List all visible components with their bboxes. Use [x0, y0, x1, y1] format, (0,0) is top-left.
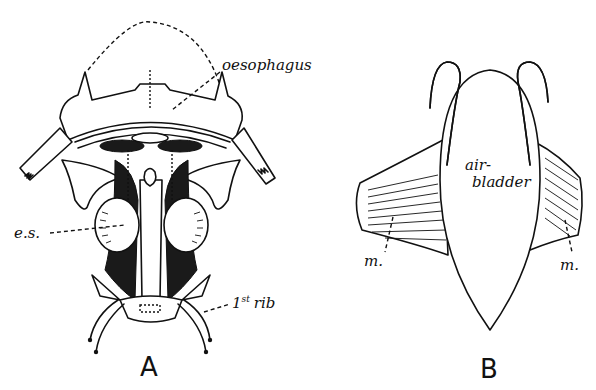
left-muscle [356, 140, 448, 255]
right-jaw-bar [232, 128, 275, 184]
label-air: air- [465, 156, 491, 174]
rib-suffix: st [242, 294, 251, 304]
panel-label-b: B [480, 354, 498, 384]
figure-canvas: oesophagus e.s. 1strib A air- bladder m [0, 0, 596, 390]
vertebral-column [140, 180, 162, 305]
label-m-right: m. [560, 256, 579, 274]
rib-ordinal: 1 [232, 294, 242, 312]
label-oesophagus: oesophagus [222, 56, 312, 74]
panel-b-drawing [356, 62, 582, 330]
label-m-left: m. [364, 252, 383, 270]
rib-word: rib [254, 294, 276, 312]
label-es: e.s. [14, 224, 40, 242]
panel-label-a: A [140, 352, 158, 382]
right-lobe [164, 198, 208, 252]
skull-arch [60, 72, 242, 140]
label-bladder: bladder [472, 173, 531, 191]
head-outline-dashed [88, 22, 220, 85]
left-lobe [95, 198, 139, 252]
left-jaw-bar [20, 128, 72, 180]
rib-leader [204, 304, 230, 312]
label-first-rib: 1strib [232, 294, 275, 312]
